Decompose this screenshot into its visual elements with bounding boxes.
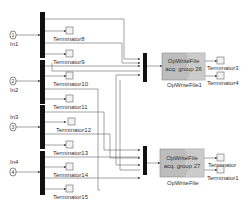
terminator-label-13: Terminator13: [53, 150, 88, 157]
svg-text:2: 2: [12, 78, 15, 84]
terminator-label-8: Terminator8: [53, 36, 85, 43]
demux-bar-1: [40, 12, 45, 58]
inport-label-4: In4: [10, 159, 18, 166]
mux-bar-2: [143, 146, 147, 175]
mux-bar-1: [143, 53, 147, 82]
inport-label-1: In1: [10, 41, 18, 48]
svg-text:1: 1: [12, 32, 15, 38]
opwritefile-1-line1: OpWriteFile: [162, 58, 205, 65]
opwritefile-2-name: OpWriteFile: [167, 180, 199, 187]
demux-bar-3: [40, 105, 45, 149]
inport-label-3: In3: [10, 114, 18, 121]
terminator-label-3: Terminator3: [207, 65, 239, 72]
terminator-label-11: Terminator11: [53, 104, 88, 111]
terminator-label-0: Terminator: [208, 162, 236, 169]
opwritefile-1-name: OpWriteFile1: [167, 82, 202, 89]
inport-label-2: In2: [10, 87, 18, 94]
demux-bar-2: [40, 60, 45, 104]
terminator-label-4: Terminator4: [207, 80, 239, 87]
terminator-label-10: Terminator10: [53, 81, 88, 88]
terminator-label-12: Terminator12: [56, 127, 91, 134]
opwritefile-1-line2: acq. group 26: [162, 66, 205, 73]
demux-bar-4: [40, 151, 45, 195]
terminator-label-14: Terminator14: [53, 172, 88, 179]
opwritefile-2-line1: OpWriteFile: [160, 155, 204, 162]
svg-text:4: 4: [12, 169, 15, 175]
svg-text:3: 3: [12, 124, 15, 130]
terminator-label-1: Terminator1: [207, 175, 239, 182]
opwritefile-2-line2: acq. group 27: [160, 163, 204, 170]
terminator-label-9: Terminator9: [53, 59, 85, 66]
terminator-label-15: Terminator15: [53, 194, 88, 201]
simulink-canvas: 1 2 3 4 In1 In2 In3 In4 Terminator8 Term…: [0, 0, 249, 206]
